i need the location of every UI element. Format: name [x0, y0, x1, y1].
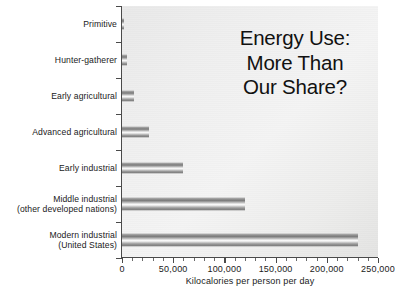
x-tick-major [224, 258, 225, 263]
y-axis-label: Early agricultural [51, 91, 117, 101]
y-tick [116, 114, 122, 115]
x-tick-minor [142, 258, 143, 261]
x-tick-minor [132, 258, 133, 261]
y-axis-line [121, 6, 122, 258]
x-tick-minor [183, 258, 184, 261]
y-axis-label: Middle industrial(other developed nation… [17, 194, 117, 215]
x-tick-label: 50,000 [159, 264, 188, 274]
x-tick-label: 100,000 [207, 264, 241, 274]
y-axis-label: Primitive [83, 19, 117, 29]
bar-row [122, 186, 378, 222]
x-tick-minor [286, 258, 287, 261]
y-axis-label-line: Primitive [83, 19, 117, 29]
x-tick-minor [368, 258, 369, 261]
y-axis-label-line: Hunter-gatherer [55, 55, 117, 65]
y-axis-label-line: Middle industrial [17, 194, 117, 204]
chart-title-line: Our Share? [215, 75, 375, 100]
y-axis-label: Modern industrial(United States) [49, 230, 117, 251]
chart-title-line: Energy Use: [215, 26, 375, 51]
y-axis-label: Early industrial [59, 163, 117, 173]
x-tick-minor [255, 258, 256, 261]
x-tick-minor [347, 258, 348, 261]
y-axis-label: Advanced agricultural [32, 127, 117, 137]
bar [122, 127, 149, 138]
x-tick-major [327, 258, 328, 263]
x-axis-line [121, 257, 378, 258]
bar-row [122, 150, 378, 186]
bar-row [122, 114, 378, 150]
x-tick-label: 250,000 [361, 264, 395, 274]
x-tick-major [276, 258, 277, 263]
x-tick-minor [337, 258, 338, 261]
x-tick-minor [245, 258, 246, 261]
bar [122, 55, 127, 66]
y-tick [116, 150, 122, 151]
x-tick-minor [358, 258, 359, 261]
y-axis-label-line: (other developed nations) [17, 204, 117, 214]
bar [122, 198, 245, 211]
bar-row [122, 222, 378, 258]
x-tick-minor [204, 258, 205, 261]
x-tick-major [173, 258, 174, 263]
y-axis-label-line: Early agricultural [51, 91, 117, 101]
x-tick-minor [194, 258, 195, 261]
x-tick-minor [296, 258, 297, 261]
x-tick-minor [163, 258, 164, 261]
y-axis-label-line: Advanced agricultural [32, 127, 117, 137]
x-tick-minor [265, 258, 266, 261]
x-tick-minor [306, 258, 307, 261]
x-tick-minor [235, 258, 236, 261]
x-tick-label: 0 [119, 264, 124, 274]
x-axis-title: Kilocalories per person per day [122, 276, 378, 286]
x-tick-minor [317, 258, 318, 261]
y-tick [116, 42, 122, 43]
y-tick [116, 222, 122, 223]
chart-title: Energy Use:More ThanOur Share? [215, 26, 375, 100]
chart-figure: PrimitiveHunter-gathererEarly agricultur… [0, 0, 399, 293]
y-axis-label-line: (United States) [49, 240, 117, 250]
y-tick [116, 6, 122, 7]
y-tick [116, 186, 122, 187]
y-axis-label-line: Early industrial [59, 163, 117, 173]
bar [122, 163, 183, 174]
y-tick [116, 78, 122, 79]
x-tick-label: 150,000 [259, 264, 293, 274]
x-tick-minor [214, 258, 215, 261]
bar [122, 91, 134, 102]
x-tick-major [378, 258, 379, 263]
x-tick-label: 200,000 [310, 264, 344, 274]
chart-title-line: More Than [215, 51, 375, 76]
x-tick-major [122, 258, 123, 263]
x-tick-minor [153, 258, 154, 261]
y-axis-label-line: Modern industrial [49, 230, 117, 240]
bar [122, 234, 358, 247]
y-axis-label: Hunter-gatherer [55, 55, 117, 65]
